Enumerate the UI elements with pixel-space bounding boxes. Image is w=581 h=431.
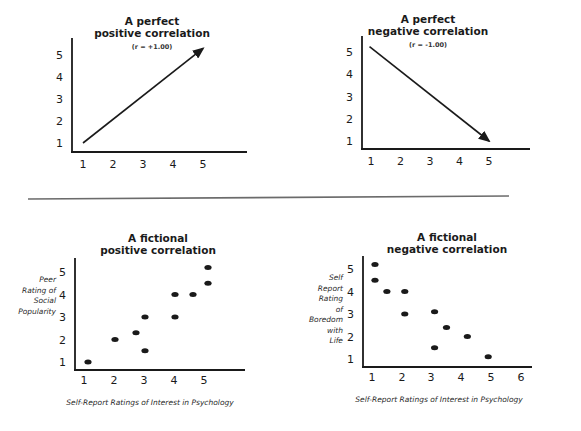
chart-title: A fictional xyxy=(128,232,188,244)
x-tick-label: 2 xyxy=(399,371,406,384)
data-point xyxy=(431,345,438,350)
chart-fictional-negative: A fictionalnegative correlation123451234… xyxy=(309,231,532,404)
x-tick-label: 4 xyxy=(456,155,463,168)
data-point xyxy=(431,309,438,314)
data-point xyxy=(84,360,91,365)
data-point xyxy=(371,262,378,267)
data-point xyxy=(401,312,408,317)
x-tick-label: 2 xyxy=(397,155,404,168)
x-tick-label: 1 xyxy=(369,371,376,384)
data-point xyxy=(443,325,450,330)
x-tick-label: 4 xyxy=(170,158,177,171)
data-point xyxy=(383,289,390,294)
y-tick-label: 2 xyxy=(346,113,353,126)
chart-title: negative correlation xyxy=(387,243,507,255)
data-point xyxy=(141,315,148,320)
x-tick-label: 1 xyxy=(80,158,87,171)
x-tick-label: 2 xyxy=(111,374,118,387)
data-point xyxy=(371,278,378,283)
x-tick-label: 4 xyxy=(458,371,465,384)
data-point xyxy=(132,330,139,335)
chart-title: negative correlation xyxy=(368,25,488,37)
x-tick-label: 5 xyxy=(200,158,207,171)
chart-title: positive correlation xyxy=(94,27,210,39)
y-axis-title: of xyxy=(336,305,345,314)
x-tick-label: 1 xyxy=(81,374,88,387)
section-divider xyxy=(28,196,509,199)
data-point xyxy=(171,292,178,297)
y-tick-label: 5 xyxy=(346,46,353,59)
x-tick-label: 3 xyxy=(140,158,147,171)
correlation-arrow xyxy=(370,47,489,141)
chart-title: A perfect xyxy=(125,15,180,27)
y-tick-label: 2 xyxy=(59,334,66,347)
chart-title: A perfect xyxy=(401,13,456,25)
x-axis-title: Self-Report Ratings of Interest in Psych… xyxy=(66,398,234,407)
y-tick-label: 2 xyxy=(347,331,354,344)
chart-perfect-negative: A perfectnegative correlation(r = -1.00)… xyxy=(346,13,530,168)
y-tick-label: 3 xyxy=(59,311,66,324)
y-axis-title: Peer xyxy=(39,275,57,284)
y-axis-title: Self xyxy=(329,273,344,282)
data-point xyxy=(204,281,211,286)
chart-subtitle: (r = +1.00) xyxy=(132,43,173,51)
y-tick-label: 3 xyxy=(346,91,353,104)
y-tick-label: 4 xyxy=(59,289,66,302)
x-tick-label: 4 xyxy=(171,374,178,387)
data-point xyxy=(189,292,196,297)
x-tick-label: 3 xyxy=(141,374,148,387)
y-tick-label: 1 xyxy=(347,353,354,366)
data-point xyxy=(464,334,471,339)
y-tick-label: 1 xyxy=(59,356,66,369)
data-point xyxy=(485,354,492,359)
correlation-arrow xyxy=(83,48,203,143)
y-tick-label: 5 xyxy=(56,49,63,62)
chart-subtitle: (r = -1.00) xyxy=(409,41,447,49)
y-tick-label: 3 xyxy=(56,93,63,106)
data-point xyxy=(141,348,148,353)
x-tick-label: 3 xyxy=(428,371,435,384)
y-tick-label: 1 xyxy=(56,137,63,150)
data-point xyxy=(171,315,178,320)
y-tick-label: 4 xyxy=(347,286,354,299)
correlation-figure: A perfectpositive correlation(r = +1.00)… xyxy=(0,0,581,431)
y-tick-label: 4 xyxy=(56,71,63,84)
y-axis-title: Boredom xyxy=(309,315,343,324)
x-tick-label: 5 xyxy=(201,374,208,387)
y-tick-label: 3 xyxy=(347,308,354,321)
chart-title: positive correlation xyxy=(100,244,216,256)
data-point xyxy=(204,265,211,270)
data-point xyxy=(401,289,408,294)
y-axis-title: Social xyxy=(34,296,57,305)
x-tick-label: 1 xyxy=(368,155,375,168)
data-point xyxy=(111,337,118,342)
y-axis-title: Rating of xyxy=(22,286,57,295)
y-tick-label: 5 xyxy=(347,263,354,276)
chart-fictional-positive: A fictionalpositive correlation123451234… xyxy=(18,232,245,407)
y-tick-label: 1 xyxy=(346,135,353,148)
x-tick-label: 5 xyxy=(488,371,495,384)
y-tick-label: 5 xyxy=(59,266,66,279)
y-axis-title: Report xyxy=(318,284,344,293)
y-axis-title: Rating xyxy=(319,294,344,303)
x-tick-label: 6 xyxy=(518,371,525,384)
y-tick-label: 4 xyxy=(346,68,353,81)
chart-title: A fictional xyxy=(417,231,477,243)
y-tick-label: 2 xyxy=(56,115,63,128)
y-axis-title: with xyxy=(327,326,343,335)
x-axis-title: Self-Report Ratings of Interest in Psych… xyxy=(355,395,523,404)
chart-perfect-positive: A perfectpositive correlation(r = +1.00)… xyxy=(56,15,247,171)
y-axis-title: Popularity xyxy=(18,307,56,316)
y-axis-title: Life xyxy=(329,336,343,345)
x-tick-label: 5 xyxy=(486,155,493,168)
x-tick-label: 2 xyxy=(110,158,117,171)
x-tick-label: 3 xyxy=(427,155,434,168)
